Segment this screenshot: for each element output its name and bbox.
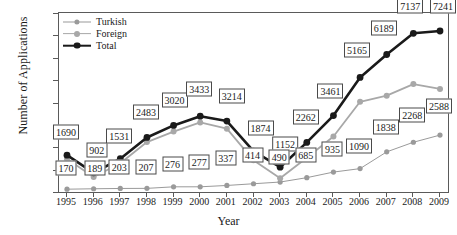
data-point-turkish (171, 184, 176, 189)
legend-label: Turkish (96, 17, 127, 27)
x-tick-label: 2009 (419, 196, 457, 207)
data-label-total: 3461 (317, 83, 343, 98)
data-point-total (437, 28, 444, 35)
data-label-total: 3214 (219, 89, 245, 104)
x-tick-mark (253, 193, 254, 197)
data-point-total (197, 113, 204, 120)
data-label-total: 1690 (53, 125, 79, 140)
data-label-turkish: 337 (215, 151, 236, 166)
data-point-turkish (411, 140, 416, 145)
data-label-turkish: 2268 (399, 108, 425, 123)
data-label-total: 3433 (186, 82, 212, 97)
x-tick-mark (93, 193, 94, 197)
legend-item-foreign: Foreign (63, 28, 127, 39)
data-label-total: 1531 (106, 128, 132, 143)
x-tick-mark (386, 193, 387, 197)
data-label-turkish: 2588 (426, 99, 452, 114)
data-label-turkish: 1838 (373, 119, 399, 134)
data-point-foreign (437, 86, 443, 92)
data-point-turkish (118, 186, 123, 191)
legend-swatch-turkish (63, 17, 91, 26)
data-point-total (330, 112, 337, 119)
data-label-turkish: 1090 (346, 138, 372, 153)
chart-figure: Number of Applications Year 010002000300… (0, 0, 457, 235)
data-point-turkish (304, 175, 309, 180)
data-point-turkish (331, 169, 336, 174)
data-label-total: 6189 (371, 20, 397, 35)
legend-swatch-foreign (63, 29, 91, 38)
data-label-total: 7241 (430, 0, 456, 13)
chart-legend: TurkishForeignTotal (63, 16, 127, 52)
y-axis-title: Number of Applications (16, 0, 31, 161)
x-tick-mark (66, 193, 67, 197)
data-point-total (144, 134, 151, 141)
data-label-turkish: 277 (189, 154, 210, 169)
data-point-turkish (144, 186, 149, 191)
data-point-turkish (198, 184, 203, 189)
data-point-total (357, 74, 364, 81)
data-point-turkish (437, 132, 442, 137)
x-tick-mark (439, 193, 440, 197)
data-point-foreign (171, 129, 177, 135)
data-label-turkish: 207 (135, 160, 156, 175)
data-point-total (410, 30, 417, 37)
data-label-total: 2262 (293, 110, 319, 125)
data-point-total (277, 164, 284, 171)
data-point-foreign (277, 175, 283, 181)
data-point-foreign (384, 93, 390, 99)
x-tick-mark (199, 193, 200, 197)
data-point-turkish (251, 181, 256, 186)
legend-marker-icon (74, 42, 81, 49)
legend-swatch-total (63, 41, 91, 50)
data-label-turkish: 685 (295, 147, 316, 162)
data-point-total (303, 139, 310, 146)
data-point-total (383, 51, 390, 58)
data-point-foreign (197, 119, 203, 125)
x-tick-mark (332, 193, 333, 197)
legend-marker-icon (74, 19, 79, 24)
data-label-turkish: 203 (109, 160, 130, 175)
legend-marker-icon (74, 31, 80, 37)
data-point-foreign (410, 81, 416, 87)
data-label-total: 2483 (133, 105, 159, 120)
data-label-total: 5165 (344, 43, 370, 58)
data-point-turkish (91, 186, 96, 191)
data-label-turkish: 414 (242, 147, 263, 162)
data-label-turkish: 490 (269, 150, 290, 165)
data-point-total (170, 122, 177, 129)
data-point-turkish (384, 149, 389, 154)
data-point-turkish (357, 166, 362, 171)
x-axis-title: Year (0, 214, 457, 229)
x-tick-mark (226, 193, 227, 197)
data-label-turkish: 189 (84, 160, 105, 175)
x-tick-mark (146, 193, 147, 197)
data-label-total: 7137 (397, 0, 423, 14)
legend-item-turkish: Turkish (63, 16, 127, 27)
data-label-turkish: 170 (56, 161, 77, 176)
legend-label: Foreign (96, 29, 127, 39)
data-point-total (223, 118, 230, 125)
data-point-foreign (224, 126, 230, 132)
legend-label: Total (96, 41, 116, 51)
data-label-total: 1874 (248, 121, 274, 136)
data-label-turkish: 935 (322, 142, 343, 157)
data-point-total (64, 152, 71, 159)
data-label-turkish: 276 (162, 156, 183, 171)
data-point-foreign (357, 99, 363, 105)
data-point-turkish (224, 183, 229, 188)
x-tick-mark (279, 193, 280, 197)
x-tick-mark (412, 193, 413, 197)
x-tick-mark (119, 193, 120, 197)
data-label-total: 902 (86, 142, 107, 157)
data-label-total: 3020 (162, 93, 188, 108)
data-point-foreign (330, 133, 336, 139)
data-point-turkish (64, 187, 69, 192)
x-tick-mark (359, 193, 360, 197)
legend-item-total: Total (63, 40, 127, 51)
x-tick-mark (306, 193, 307, 197)
x-tick-mark (173, 193, 174, 197)
